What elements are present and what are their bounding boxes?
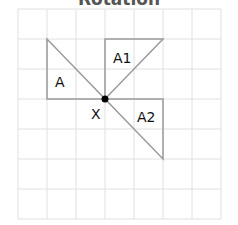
rotation-diagram: A A1 A2 X xyxy=(0,0,238,225)
label-a1: A1 xyxy=(113,50,131,66)
rotation-center-point xyxy=(102,96,109,103)
label-a: A xyxy=(55,74,65,90)
label-x: X xyxy=(91,106,101,122)
label-a2: A2 xyxy=(137,109,155,125)
